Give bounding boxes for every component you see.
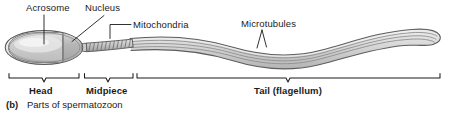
- microtubules-leader: [257, 30, 267, 48]
- figure-caption-text: Parts of spermatozoon: [27, 99, 123, 110]
- part-brackets: [9, 74, 440, 83]
- bracket-label-tail: Tail (flagellum): [254, 85, 322, 96]
- label-mitochondria: Mitochondria: [133, 19, 189, 30]
- label-nucleus: Nucleus: [85, 2, 120, 13]
- bracket-label-head: Head: [29, 85, 53, 96]
- tail-flagellum: [130, 29, 440, 69]
- bracket-midpiece: [85, 74, 134, 83]
- label-acrosome: Acrosome: [26, 2, 70, 13]
- label-microtubules: Microtubules: [241, 18, 296, 29]
- bracket-label-midpiece: Midpiece: [86, 85, 127, 96]
- bracket-tail: [137, 74, 440, 83]
- bracket-head: [9, 74, 79, 83]
- nucleus-leader: [72, 16, 104, 42]
- figure-caption-tag: (b): [6, 99, 18, 110]
- midpiece: [80, 31, 136, 56]
- nucleus: [63, 33, 82, 63]
- mitochondria-leader: [110, 25, 131, 39]
